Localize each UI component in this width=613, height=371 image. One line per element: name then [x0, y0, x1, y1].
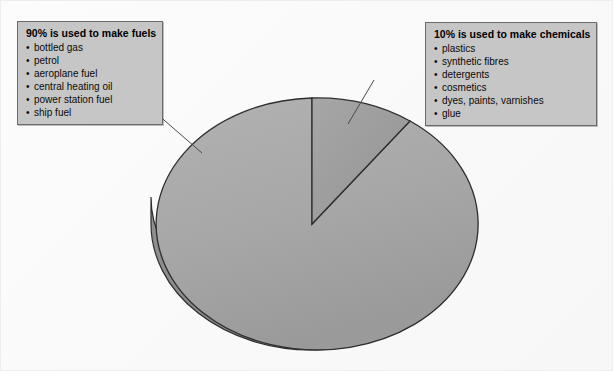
list-item: synthetic fibres — [434, 55, 589, 68]
list-item: cosmetics — [434, 81, 589, 94]
list-item: glue — [434, 107, 589, 120]
callout-chemicals-title: 10% is used to make chemicals — [434, 27, 589, 41]
list-item: ship fuel — [26, 106, 155, 119]
list-item: dyes, paints, varnishes — [434, 94, 589, 107]
list-item: bottled gas — [26, 41, 155, 54]
callout-fuels-list: bottled gas petrol aeroplane fuel centra… — [26, 41, 155, 119]
callout-fuels[interactable]: 90% is used to make fuels bottled gas pe… — [17, 21, 163, 125]
callout-chemicals-list: plastics synthetic fibres detergents cos… — [434, 42, 589, 120]
callout-fuels-title: 90% is used to make fuels — [26, 26, 155, 40]
list-item: plastics — [434, 42, 589, 55]
list-item: aeroplane fuel — [26, 67, 155, 80]
list-item: power station fuel — [26, 93, 155, 106]
list-item: petrol — [26, 54, 155, 67]
list-item: central heating oil — [26, 80, 155, 93]
list-item: detergents — [434, 68, 589, 81]
callout-chemicals[interactable]: 10% is used to make chemicals plastics s… — [425, 22, 597, 126]
leader-line-fuels — [157, 114, 202, 153]
figure-canvas: 90% is used to make fuels bottled gas pe… — [0, 0, 613, 371]
